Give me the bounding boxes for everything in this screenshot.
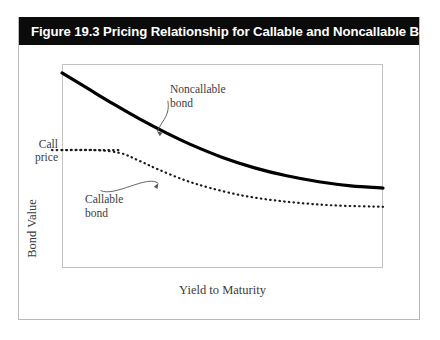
y-axis-title: Bond Value bbox=[25, 181, 40, 277]
figure-title: Figure 19.3 Pricing Relationship for Cal… bbox=[31, 24, 440, 39]
call-price-label-line1: Call bbox=[4, 138, 58, 151]
noncallable-annotation-line2: bond bbox=[170, 96, 226, 110]
noncallable-annotation-line1: Noncallable bbox=[170, 82, 226, 96]
call-price-label-line2: price bbox=[4, 151, 58, 164]
figure-container: Figure 19.3 Pricing Relationship for Cal… bbox=[0, 0, 440, 340]
figure-title-bar: Figure 19.3 Pricing Relationship for Cal… bbox=[19, 17, 419, 45]
noncallable-bond-annotation: Noncallable bond bbox=[170, 82, 226, 110]
x-axis-title: Yield to Maturity bbox=[62, 283, 383, 298]
callable-annotation-line1: Callable bbox=[85, 192, 123, 206]
call-price-axis-label: Call price bbox=[4, 138, 58, 164]
callable-leader-arrowhead bbox=[154, 183, 158, 189]
callable-bond-annotation: Callable bond bbox=[85, 192, 123, 220]
noncallable-leader-line bbox=[157, 101, 168, 132]
callable-leader-line bbox=[101, 181, 159, 192]
callable-annotation-line2: bond bbox=[85, 206, 123, 220]
